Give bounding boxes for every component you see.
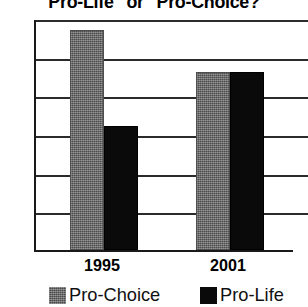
legend-item-pro-choice: Pro-Choice [49, 284, 164, 306]
bar-2001-pro-choice [196, 72, 230, 250]
x-axis-category-label: 1995 [51, 256, 154, 276]
chart-legend: Pro-ChoicePro-Life [0, 283, 308, 307]
black-swatch [200, 287, 217, 304]
gridline [36, 20, 308, 22]
x-axis-category-label: 2001 [177, 256, 280, 276]
plot-area: 0%10%20%30%40%50%60% [34, 20, 293, 252]
legend-item-pro-life: Pro-Life [200, 284, 287, 306]
bar-chart: "Pro-Life" or "Pro-Choice?" 0%10%20%30%4… [0, 0, 308, 307]
bar-1995-pro-life [104, 126, 138, 250]
gray-swatch [49, 287, 66, 304]
chart-title: "Pro-Life" or "Pro-Choice?" [9, 0, 299, 13]
legend-label: Pro-Life [220, 284, 284, 306]
bar-2001-pro-life [230, 72, 264, 250]
bar-1995-pro-choice [70, 30, 104, 250]
legend-label: Pro-Choice [69, 284, 160, 306]
